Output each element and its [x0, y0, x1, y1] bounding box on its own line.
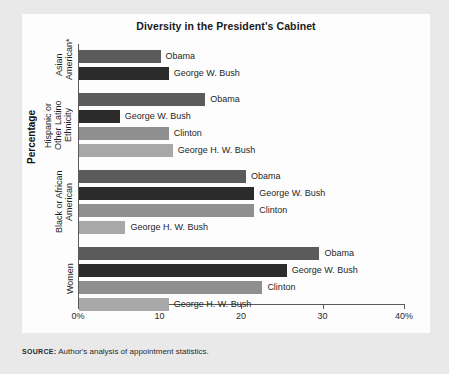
- bar-label: Obama: [319, 247, 354, 260]
- bar-label: George W. Bush: [287, 264, 358, 277]
- bar: [79, 281, 262, 294]
- bar-label: Clinton: [169, 127, 202, 140]
- bar-row: George H. W. Bush: [79, 221, 405, 234]
- bar: [79, 221, 125, 234]
- bar: [79, 67, 169, 80]
- bar: [79, 93, 205, 106]
- plot-area: 0%10203040%ObamaGeorge W. BushAsian Amer…: [78, 44, 404, 304]
- bar-label: Clinton: [262, 281, 295, 294]
- x-axis-tick-label: 10: [154, 311, 164, 321]
- bar-row: Obama: [79, 50, 405, 63]
- figure-card: Diversity in the President's Cabinet Per…: [22, 14, 430, 333]
- bar-row: George W. Bush: [79, 67, 405, 80]
- bar-row: Obama: [79, 93, 405, 106]
- bar: [79, 127, 169, 140]
- source-text: Author's analysis of appointment statist…: [58, 347, 209, 356]
- group-category-label: Women: [65, 247, 76, 311]
- running-header: [0, 0, 449, 9]
- bar-row: Obama: [79, 247, 405, 260]
- bar-label: George W. Bush: [120, 110, 191, 123]
- bar-label: Clinton: [254, 204, 287, 217]
- x-axis-tick-label: 20: [236, 311, 246, 321]
- bar: [79, 247, 319, 260]
- bar-row: George W. Bush: [79, 110, 405, 123]
- bar: [79, 187, 254, 200]
- bar-row: Clinton: [79, 127, 405, 140]
- y-axis-title: Percentage: [26, 110, 37, 164]
- x-axis-tick-label: 40%: [395, 311, 413, 321]
- x-axis-tick-label: 30: [317, 311, 327, 321]
- group-category-label: Black or African American: [54, 170, 76, 234]
- bar: [79, 298, 169, 311]
- bar-label: George H. W. Bush: [173, 144, 256, 157]
- bar-label: Obama: [246, 170, 281, 183]
- source-note: SOURCE: Author's analysis of appointment…: [22, 347, 209, 356]
- bar-row: George H. W. Bush: [79, 144, 405, 157]
- bar-row: Obama: [79, 170, 405, 183]
- bar-label: George H. W. Bush: [125, 221, 208, 234]
- bar-label: George W. Bush: [254, 187, 325, 200]
- bar-label: Obama: [205, 93, 240, 106]
- bar-row: George W. Bush: [79, 264, 405, 277]
- bar-row: George W. Bush: [79, 187, 405, 200]
- bar: [79, 144, 173, 157]
- bar-label: Obama: [161, 50, 196, 63]
- bar: [79, 264, 287, 277]
- chart-title: Diversity in the President's Cabinet: [22, 20, 430, 32]
- bar-row: Clinton: [79, 204, 405, 217]
- source-kicker: SOURCE:: [22, 348, 56, 355]
- bar: [79, 170, 246, 183]
- x-axis-tick-label: 0%: [71, 311, 84, 321]
- group-category-label: Asian American*: [54, 50, 76, 80]
- bar-label: George H. W. Bush: [169, 298, 252, 311]
- bar: [79, 204, 254, 217]
- bar-row: Clinton: [79, 281, 405, 294]
- bar: [79, 50, 161, 63]
- bar: [79, 110, 120, 123]
- bar-label: George W. Bush: [169, 67, 240, 80]
- group-category-label: Hispanic or Other Latino Ethnicity: [43, 93, 76, 157]
- bar-row: George H. W. Bush: [79, 298, 405, 311]
